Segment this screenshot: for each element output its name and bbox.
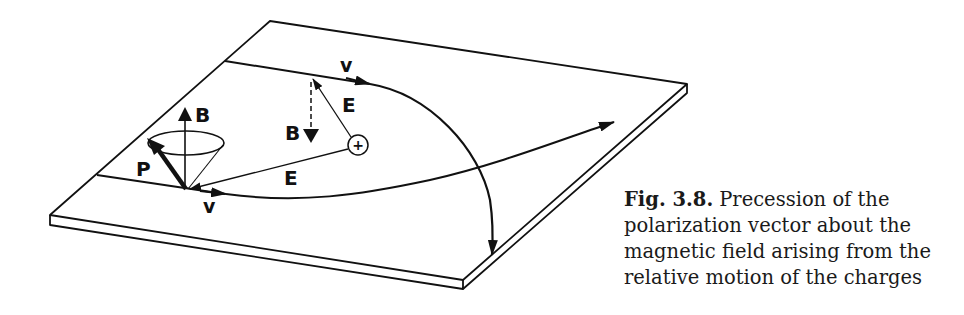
positive-charge: + [348,135,368,155]
caption-line-1: Fig. 3.8.Precession of the [624,187,954,213]
label-e-upper: E [342,93,356,117]
charge-sign: + [352,137,364,153]
caption-line-4: relative motion of the charges [624,265,954,291]
label-v-lower: v [203,195,216,217]
label-b-down: B [285,121,300,145]
caption-line-3: magnetic field arising from the [624,239,954,265]
figure-caption: Fig. 3.8.Precession of the polarization … [624,187,954,291]
plate [50,21,687,289]
plate-top-surface [50,21,687,280]
label-e-lower: E [284,166,298,190]
label-b-up: B [195,103,210,127]
label-v-upper: v [340,54,353,76]
figure-number: Fig. 3.8. [624,188,713,211]
caption-line-2: polarization vector about the [624,213,954,239]
label-p: P [136,157,151,181]
